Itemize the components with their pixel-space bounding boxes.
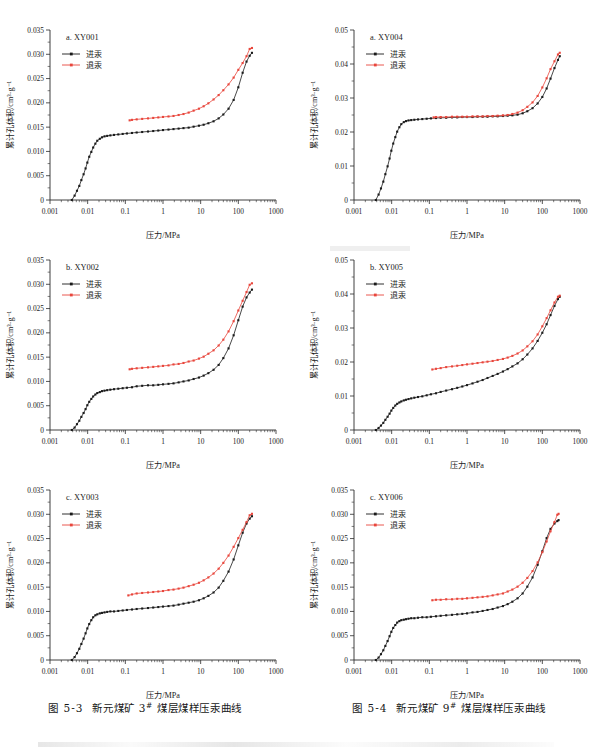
y-tick-label: 0.02 bbox=[335, 358, 348, 367]
x-tick-label: 0.001 bbox=[346, 667, 363, 676]
y-tick-label: 0.020 bbox=[27, 328, 44, 337]
x-tick-label: 0.001 bbox=[42, 667, 59, 676]
caption-right-sup: # bbox=[450, 701, 457, 710]
panel-XY005: 0.0010.010.1110100100000.010.020.030.040… bbox=[304, 244, 594, 474]
x-tick-label: 0.01 bbox=[385, 207, 398, 216]
y-tick-label: 0.04 bbox=[335, 60, 348, 69]
y-tick-label: 0.005 bbox=[27, 171, 44, 180]
panel-label: a. XY001 bbox=[66, 33, 99, 42]
y-tick-label: 0.005 bbox=[331, 631, 348, 640]
series-intrusion bbox=[375, 55, 561, 201]
y-tick-label: 0.03 bbox=[335, 324, 348, 333]
y-tick-label: 0.025 bbox=[27, 534, 44, 543]
x-axis-title: 压力/MPa bbox=[146, 690, 180, 700]
x-tick-label: 1 bbox=[161, 437, 165, 446]
legend: 进汞退汞 bbox=[62, 280, 102, 300]
x-tick-label: 1000 bbox=[269, 667, 284, 676]
x-axis-title: 压力/MPa bbox=[450, 690, 484, 700]
legend: 进汞退汞 bbox=[366, 510, 406, 530]
legend: 进汞退汞 bbox=[62, 510, 102, 530]
legend-label: 进汞 bbox=[390, 280, 406, 289]
y-tick-label: 0 bbox=[40, 426, 44, 435]
caption-left: 图 5-3新元煤矿 3# 煤层煤样压汞曲线 bbox=[0, 700, 290, 726]
caption-right: 图 5-4新元煤矿 9# 煤层煤样压汞曲线 bbox=[304, 700, 594, 726]
y-axis-title: 累计孔体积/cm³·g⁻¹ bbox=[309, 540, 319, 609]
y-axis-title: 累计孔体积/cm³·g⁻¹ bbox=[309, 310, 319, 379]
y-tick-label: 0 bbox=[344, 656, 348, 665]
y-tick-label: 0 bbox=[40, 196, 44, 205]
legend-label: 进汞 bbox=[86, 280, 102, 289]
series-extrusion bbox=[431, 513, 559, 602]
plot-XY005: 0.0010.010.1110100100000.010.020.030.040… bbox=[304, 244, 594, 474]
x-tick-label: 0.01 bbox=[385, 667, 398, 676]
x-axis-title: 压力/MPa bbox=[450, 460, 484, 470]
y-tick-label: 0.01 bbox=[335, 392, 348, 401]
legend-label: 进汞 bbox=[390, 50, 406, 59]
plot-XY001: 0.0010.010.1110100100000.0050.0100.0150.… bbox=[0, 14, 290, 244]
x-tick-label: 1 bbox=[465, 207, 469, 216]
y-tick-label: 0.01 bbox=[335, 162, 348, 171]
series-extrusion bbox=[129, 282, 253, 370]
x-axis-title: 压力/MPa bbox=[146, 230, 180, 240]
legend-label: 退汞 bbox=[86, 61, 102, 70]
x-tick-label: 100 bbox=[537, 207, 548, 216]
panel-XY002: 0.0010.010.1110100100000.0050.0100.0150.… bbox=[0, 244, 290, 474]
y-tick-label: 0.05 bbox=[335, 26, 348, 35]
x-tick-label: 0.001 bbox=[42, 437, 59, 446]
legend: 进汞退汞 bbox=[366, 280, 406, 300]
x-tick-label: 10 bbox=[501, 207, 509, 216]
y-tick-label: 0.020 bbox=[27, 98, 44, 107]
legend-label: 退汞 bbox=[86, 521, 102, 530]
y-tick-label: 0.010 bbox=[27, 607, 44, 616]
x-tick-label: 1 bbox=[161, 207, 165, 216]
x-tick-label: 0.01 bbox=[81, 667, 94, 676]
y-tick-label: 0.005 bbox=[27, 631, 44, 640]
x-tick-label: 100 bbox=[233, 207, 244, 216]
caption-right-before: 新元煤矿 bbox=[396, 702, 438, 714]
y-tick-label: 0.04 bbox=[335, 290, 348, 299]
figure-page: 0.0010.010.1110100100000.0050.0100.0150.… bbox=[0, 0, 594, 754]
x-tick-label: 1 bbox=[161, 667, 165, 676]
panel-label: a. XY004 bbox=[370, 33, 403, 42]
x-axis-title: 压力/MPa bbox=[146, 460, 180, 470]
y-tick-label: 0.010 bbox=[27, 147, 44, 156]
panel-XY003: 0.0010.010.1110100100000.0050.0100.0150.… bbox=[0, 474, 290, 704]
plot-XY003: 0.0010.010.1110100100000.0050.0100.0150.… bbox=[0, 474, 290, 704]
series-intrusion bbox=[71, 52, 253, 201]
caption-left-sup: # bbox=[146, 701, 153, 710]
y-tick-label: 0.025 bbox=[27, 304, 44, 313]
plot-XY006: 0.0010.010.1110100100000.0050.0100.0150.… bbox=[304, 474, 594, 704]
panel-XY006: 0.0010.010.1110100100000.0050.0100.0150.… bbox=[304, 474, 594, 704]
plot-XY004: 0.0010.010.1110100100000.010.020.030.040… bbox=[304, 14, 594, 244]
legend-label: 进汞 bbox=[86, 50, 102, 59]
legend-label: 进汞 bbox=[86, 510, 102, 519]
series-extrusion bbox=[127, 513, 253, 597]
series-intrusion bbox=[71, 515, 253, 661]
y-tick-label: 0.02 bbox=[335, 128, 348, 137]
panel-XY001: 0.0010.010.1110100100000.0050.0100.0150.… bbox=[0, 14, 290, 244]
panel-label: b. XY005 bbox=[370, 263, 403, 272]
y-tick-label: 0.030 bbox=[27, 280, 44, 289]
y-tick-label: 0.035 bbox=[331, 486, 348, 495]
x-tick-label: 0.1 bbox=[425, 207, 435, 216]
x-tick-label: 10 bbox=[501, 667, 509, 676]
x-tick-label: 0.1 bbox=[121, 207, 131, 216]
x-tick-label: 1000 bbox=[573, 437, 588, 446]
caption-left-after: 煤层煤样压汞曲线 bbox=[157, 702, 242, 714]
panel-label: c. XY006 bbox=[370, 493, 403, 502]
x-tick-label: 10 bbox=[197, 667, 205, 676]
legend-label: 退汞 bbox=[390, 61, 406, 70]
y-tick-label: 0.05 bbox=[335, 256, 348, 265]
legend-label: 退汞 bbox=[390, 521, 406, 530]
x-tick-label: 10 bbox=[501, 437, 509, 446]
y-axis-title: 累计孔体积/cm³·g⁻¹ bbox=[309, 80, 319, 149]
x-tick-label: 0.01 bbox=[385, 437, 398, 446]
series-intrusion bbox=[375, 519, 560, 661]
caption-right-prefix: 图 5-4 bbox=[352, 702, 387, 714]
series-intrusion bbox=[71, 289, 253, 431]
y-tick-label: 0.010 bbox=[27, 377, 44, 386]
panel-label: b. XY002 bbox=[66, 263, 99, 272]
y-tick-label: 0.005 bbox=[27, 401, 44, 410]
y-tick-label: 0 bbox=[344, 426, 348, 435]
caption-row: 图 5-3新元煤矿 3# 煤层煤样压汞曲线 图 5-4新元煤矿 9# 煤层煤样压… bbox=[0, 700, 594, 726]
